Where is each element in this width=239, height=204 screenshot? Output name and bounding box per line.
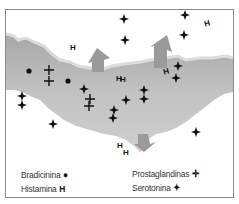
svg-text:H: H [120, 75, 126, 84]
legend-label: Bradicinina [21, 169, 60, 180]
star-icon: ✦ [173, 182, 180, 193]
svg-text:H: H [123, 148, 129, 157]
tissue-band [6, 34, 233, 152]
circle-icon: ● [63, 169, 68, 180]
svg-text:H: H [203, 18, 211, 28]
legend-label: Histamina [21, 183, 57, 194]
h-icon: H [59, 183, 65, 194]
legend-serotonina: Serotonina✦ [132, 182, 180, 193]
legend-prostaglandinas: Prostaglandinas✛ [132, 168, 199, 179]
svg-text:H: H [70, 43, 76, 52]
legend-label: Prostaglandinas [132, 168, 189, 179]
legend-label: Serotonina [132, 182, 171, 193]
legend-histamina: HistaminaH [21, 183, 65, 194]
cross-icon: ✛ [192, 168, 199, 179]
legend-bradicinina: Bradicinina● [21, 169, 68, 180]
